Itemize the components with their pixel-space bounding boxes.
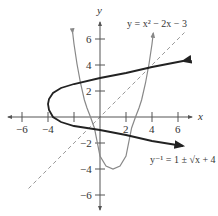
y-tick-label: 2 [86, 85, 92, 97]
x-tick-label: 6 [175, 123, 181, 135]
x-tick-label: 4 [149, 123, 155, 135]
x-tick-label: −4 [42, 123, 54, 135]
identity-line [29, 33, 185, 189]
parabola-equation-label: y = x² − 2x − 3 [127, 18, 187, 29]
graph: −6 −4 2 4 6 x 6 4 2 −2 −4 −6 y y = x² − … [0, 0, 218, 216]
y-tick-label: 4 [86, 59, 92, 71]
y-axis: 6 4 2 −2 −4 −6 y [80, 4, 105, 210]
y-tick-label: −6 [80, 189, 92, 201]
y-tick-label: −4 [80, 163, 92, 175]
x-tick-label: −6 [16, 123, 28, 135]
inverse-curve [48, 61, 183, 146]
x-tick-label: 2 [123, 123, 129, 135]
y-tick-label: 6 [86, 33, 92, 45]
y-axis-label: y [96, 4, 102, 16]
y-tick-label: −2 [80, 137, 92, 149]
x-axis-label: x [197, 110, 203, 122]
inverse-equation-label: y⁻¹ = 1 ± √x + 4 [150, 154, 216, 165]
